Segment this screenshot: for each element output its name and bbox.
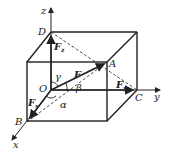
point-O: O (39, 83, 47, 94)
force-box-diagram: z y x D A C B O F Fz Fy Fx γ β α (0, 0, 175, 152)
angle-alpha: α (60, 99, 67, 110)
z-axis-label: z (40, 5, 47, 16)
gamma-arc (51, 82, 58, 86)
point-B: B (14, 116, 22, 127)
label-F: F (73, 69, 82, 80)
dashed-lines (27, 32, 137, 122)
angle-beta: β (75, 82, 82, 93)
angle-gamma: γ (55, 71, 61, 82)
x-axis-label: x (13, 139, 19, 150)
label-Fz: Fz (53, 41, 65, 53)
alpha-arc (46, 96, 56, 98)
point-A: A (108, 58, 116, 69)
point-C: C (135, 92, 143, 103)
label-Fx: Fx (27, 97, 39, 109)
beta-arc (66, 83, 67, 90)
y-axis-label: y (153, 91, 160, 102)
axes (12, 8, 160, 140)
box-edges (27, 32, 137, 121)
point-D: D (37, 26, 46, 37)
